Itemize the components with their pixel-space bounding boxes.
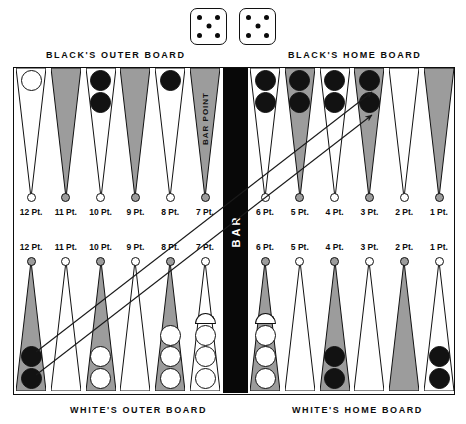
checker-stack[interactable] bbox=[285, 70, 315, 113]
checker-white[interactable] bbox=[255, 313, 276, 324]
point-label: 7 Pt. bbox=[196, 242, 214, 252]
checker-black[interactable] bbox=[255, 70, 276, 91]
point-triangle bbox=[389, 261, 419, 391]
checker-black[interactable] bbox=[90, 70, 111, 91]
checker-black[interactable] bbox=[21, 346, 42, 367]
caption-black-outer-board: BLACK'S OUTER BOARD bbox=[46, 50, 186, 60]
checker-white[interactable] bbox=[160, 346, 181, 367]
checker-stack[interactable] bbox=[424, 346, 454, 389]
point-2-white-home-board[interactable]: 2 Pt. bbox=[389, 261, 419, 391]
checker-black[interactable] bbox=[324, 346, 345, 367]
point-1-white-home-board[interactable]: 1 Pt. bbox=[424, 261, 454, 391]
point-label: 4 Pt. bbox=[326, 207, 344, 217]
checker-stack[interactable] bbox=[354, 70, 384, 113]
point-3-white-home-board[interactable]: 3 Pt. bbox=[354, 261, 384, 391]
point-tip-marker bbox=[201, 193, 210, 202]
point-label: 10 Pt. bbox=[89, 242, 112, 252]
point-8-white-outer-board[interactable]: 8 Pt. bbox=[155, 261, 185, 391]
point-label: 7 Pt. bbox=[196, 207, 214, 217]
point-10-black-outer-board[interactable]: 10 Pt. bbox=[86, 68, 116, 198]
checker-stack[interactable] bbox=[190, 313, 220, 389]
bar-point-label: BAR POINT bbox=[201, 92, 210, 145]
checker-stack[interactable] bbox=[320, 70, 350, 113]
point-7-white-outer-board[interactable]: 7 Pt. bbox=[190, 261, 220, 391]
checker-black[interactable] bbox=[324, 92, 345, 113]
checker-stack[interactable] bbox=[250, 70, 280, 113]
checker-white[interactable] bbox=[21, 70, 42, 91]
checker-white[interactable] bbox=[195, 346, 216, 367]
point-tip-marker bbox=[27, 193, 36, 202]
die-pip bbox=[215, 33, 220, 38]
point-4-black-home-board[interactable]: 4 Pt. bbox=[320, 68, 350, 198]
point-5-black-home-board[interactable]: 5 Pt. bbox=[285, 68, 315, 198]
point-label: 8 Pt. bbox=[161, 207, 179, 217]
checker-black[interactable] bbox=[90, 92, 111, 113]
checker-white[interactable] bbox=[160, 325, 181, 346]
point-label: 1 Pt. bbox=[430, 242, 448, 252]
checker-stack[interactable] bbox=[250, 313, 280, 389]
point-11-white-outer-board[interactable]: 11 Pt. bbox=[51, 261, 81, 391]
point-label: 4 Pt. bbox=[326, 242, 344, 252]
checker-stack[interactable] bbox=[155, 325, 185, 390]
checker-white[interactable] bbox=[90, 346, 111, 367]
point-7-black-outer-board[interactable]: 7 Pt.BAR POINT bbox=[190, 68, 220, 198]
point-label: 9 Pt. bbox=[126, 207, 144, 217]
die-2[interactable] bbox=[239, 8, 276, 45]
checker-white[interactable] bbox=[195, 368, 216, 389]
checker-black[interactable] bbox=[359, 92, 380, 113]
checker-white[interactable] bbox=[90, 368, 111, 389]
point-6-black-home-board[interactable]: 6 Pt. bbox=[250, 68, 280, 198]
checker-black[interactable] bbox=[289, 70, 310, 91]
point-tip-marker bbox=[435, 193, 444, 202]
point-2-black-home-board[interactable]: 2 Pt. bbox=[389, 68, 419, 198]
checker-white[interactable] bbox=[255, 368, 276, 389]
point-tip-marker bbox=[365, 257, 374, 266]
checker-stack[interactable] bbox=[155, 70, 185, 92]
point-label: 9 Pt. bbox=[126, 242, 144, 252]
point-12-black-outer-board[interactable]: 12 Pt. bbox=[16, 68, 46, 198]
point-label: 11 Pt. bbox=[55, 242, 77, 252]
checker-black[interactable] bbox=[429, 346, 450, 367]
point-11-black-outer-board[interactable]: 11 Pt. bbox=[51, 68, 81, 198]
checker-white[interactable] bbox=[255, 346, 276, 367]
caption-white-outer-board: WHITE'S OUTER BOARD bbox=[70, 405, 207, 415]
checker-black[interactable] bbox=[289, 92, 310, 113]
bar[interactable]: BAR bbox=[223, 68, 248, 393]
point-tip-marker bbox=[400, 257, 409, 266]
point-label: 6 Pt. bbox=[256, 242, 274, 252]
die-pip bbox=[246, 15, 251, 20]
checker-white[interactable] bbox=[160, 368, 181, 389]
checker-stack[interactable] bbox=[320, 346, 350, 389]
checker-black[interactable] bbox=[324, 70, 345, 91]
checker-stack[interactable] bbox=[16, 346, 46, 389]
checker-black[interactable] bbox=[160, 70, 181, 91]
checker-stack[interactable] bbox=[16, 70, 46, 92]
point-triangle bbox=[120, 261, 150, 391]
checker-black[interactable] bbox=[429, 368, 450, 389]
point-6-white-home-board[interactable]: 6 Pt. bbox=[250, 261, 280, 391]
point-4-white-home-board[interactable]: 4 Pt. bbox=[320, 261, 350, 391]
checker-black[interactable] bbox=[21, 368, 42, 389]
point-tip-marker bbox=[61, 193, 70, 202]
checker-black[interactable] bbox=[255, 92, 276, 113]
point-8-black-outer-board[interactable]: 8 Pt. bbox=[155, 68, 185, 198]
point-3-black-home-board[interactable]: 3 Pt. bbox=[354, 68, 384, 198]
point-tip-marker bbox=[27, 257, 36, 266]
checker-stack[interactable] bbox=[86, 346, 116, 389]
point-tip-marker bbox=[201, 257, 210, 266]
point-9-white-outer-board[interactable]: 9 Pt. bbox=[120, 261, 150, 391]
point-triangle bbox=[389, 68, 419, 198]
point-1-black-home-board[interactable]: 1 Pt. bbox=[424, 68, 454, 198]
point-12-white-outer-board[interactable]: 12 Pt. bbox=[16, 261, 46, 391]
checker-white[interactable] bbox=[255, 325, 276, 346]
checker-white[interactable] bbox=[195, 325, 216, 346]
point-5-white-home-board[interactable]: 5 Pt. bbox=[285, 261, 315, 391]
die-1[interactable] bbox=[190, 8, 227, 45]
die-pip bbox=[197, 33, 202, 38]
checker-black[interactable] bbox=[359, 70, 380, 91]
point-9-black-outer-board[interactable]: 9 Pt. bbox=[120, 68, 150, 198]
point-10-white-outer-board[interactable]: 10 Pt. bbox=[86, 261, 116, 391]
checker-white[interactable] bbox=[195, 313, 216, 324]
checker-stack[interactable] bbox=[86, 70, 116, 113]
checker-black[interactable] bbox=[324, 368, 345, 389]
